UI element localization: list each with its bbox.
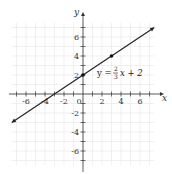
equation-lhs: y = xyxy=(96,68,112,78)
y-tick-label: -2 xyxy=(71,109,79,118)
x-tick-label: -2 xyxy=(60,97,68,106)
x-tick-label: 0 xyxy=(76,97,81,106)
equation-denominator: 3 xyxy=(114,73,118,80)
x-tick-label: 2 xyxy=(99,97,104,106)
equation-label: y = 2 3 x + 2 xyxy=(96,65,143,80)
data-point xyxy=(81,73,85,77)
equation-rhs: x + 2 xyxy=(120,68,143,78)
x-tick-label: 4 xyxy=(118,97,123,106)
y-tick-label: 6 xyxy=(74,33,79,42)
y-tick-label: 4 xyxy=(74,52,79,61)
graph: -6-4-20246642-2-4-6 x y y = 2 3 x + 2 xyxy=(0,0,172,174)
x-axis-label: x xyxy=(162,93,167,103)
y-tick-label: -6 xyxy=(71,147,79,156)
data-point xyxy=(110,54,114,58)
x-tick-label: 6 xyxy=(137,97,142,106)
equation-numerator: 2 xyxy=(114,65,118,72)
y-tick-label: -4 xyxy=(71,128,79,137)
x-tick-label: -6 xyxy=(22,97,30,106)
y-axis-label: y xyxy=(73,7,80,17)
